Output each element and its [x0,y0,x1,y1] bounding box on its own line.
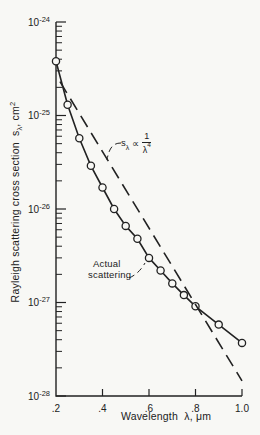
series-dashed-line [60,82,242,381]
data-point-marker [122,222,129,229]
data-point-marker [157,267,164,274]
plot-area [52,22,245,396]
x-tick-label: .2 [52,403,61,414]
data-point-marker [111,205,118,212]
x-tick-label: 1.0 [235,403,249,414]
annotation-actual-scattering: Actual scattering [88,259,131,280]
data-point-marker [180,292,187,299]
data-point-marker [76,135,83,142]
y-axis-title: Rayleigh scattering cross section sλ, cm… [8,102,24,303]
rayleigh-symbol-sub: λ [126,144,130,151]
data-point-marker [134,235,141,242]
data-point-marker [238,339,245,346]
axis-frame [56,22,242,396]
x-tick-label: .4 [98,403,107,414]
rayleigh-fraction: 1 λ4 [142,132,151,155]
fraction-denominator: λ4 [143,143,151,155]
series-solid-line [56,61,242,343]
figure: 10-2410-2510-2610-2710-28.2.4.6.81.0Wave… [0,0,260,435]
y-tick-label: 10-27 [28,295,50,308]
rayleigh-label-leader [107,143,121,160]
actual-scattering-leader [129,263,145,278]
y-tick-label: 10-24 [28,15,50,28]
data-point-marker [87,162,94,169]
y-tick-label: 10-26 [28,202,50,215]
annotation-actual-line1: Actual [93,259,131,270]
data-point-marker [64,101,71,108]
y-tick-label: 10-28 [28,389,50,402]
data-point-marker [169,280,176,287]
rayleigh-symbol: sλ [121,138,129,150]
annotation-actual-line2: scattering [88,270,131,281]
chart-canvas: 10-2410-2510-2610-2710-28.2.4.6.81.0Wave… [0,0,260,435]
data-point-marker [215,321,222,328]
data-point-marker [99,184,106,191]
annotation-rayleigh-law: sλ ∝ 1 λ4 [121,132,151,155]
data-point-marker [52,58,59,65]
fraction-denominator-exp: 4 [147,141,151,148]
y-tick-label: 10-25 [28,108,50,121]
proportional-symbol: ∝ [132,139,139,149]
data-point-marker [145,254,152,261]
x-axis-title: Wavelength λ, μm [121,410,211,422]
